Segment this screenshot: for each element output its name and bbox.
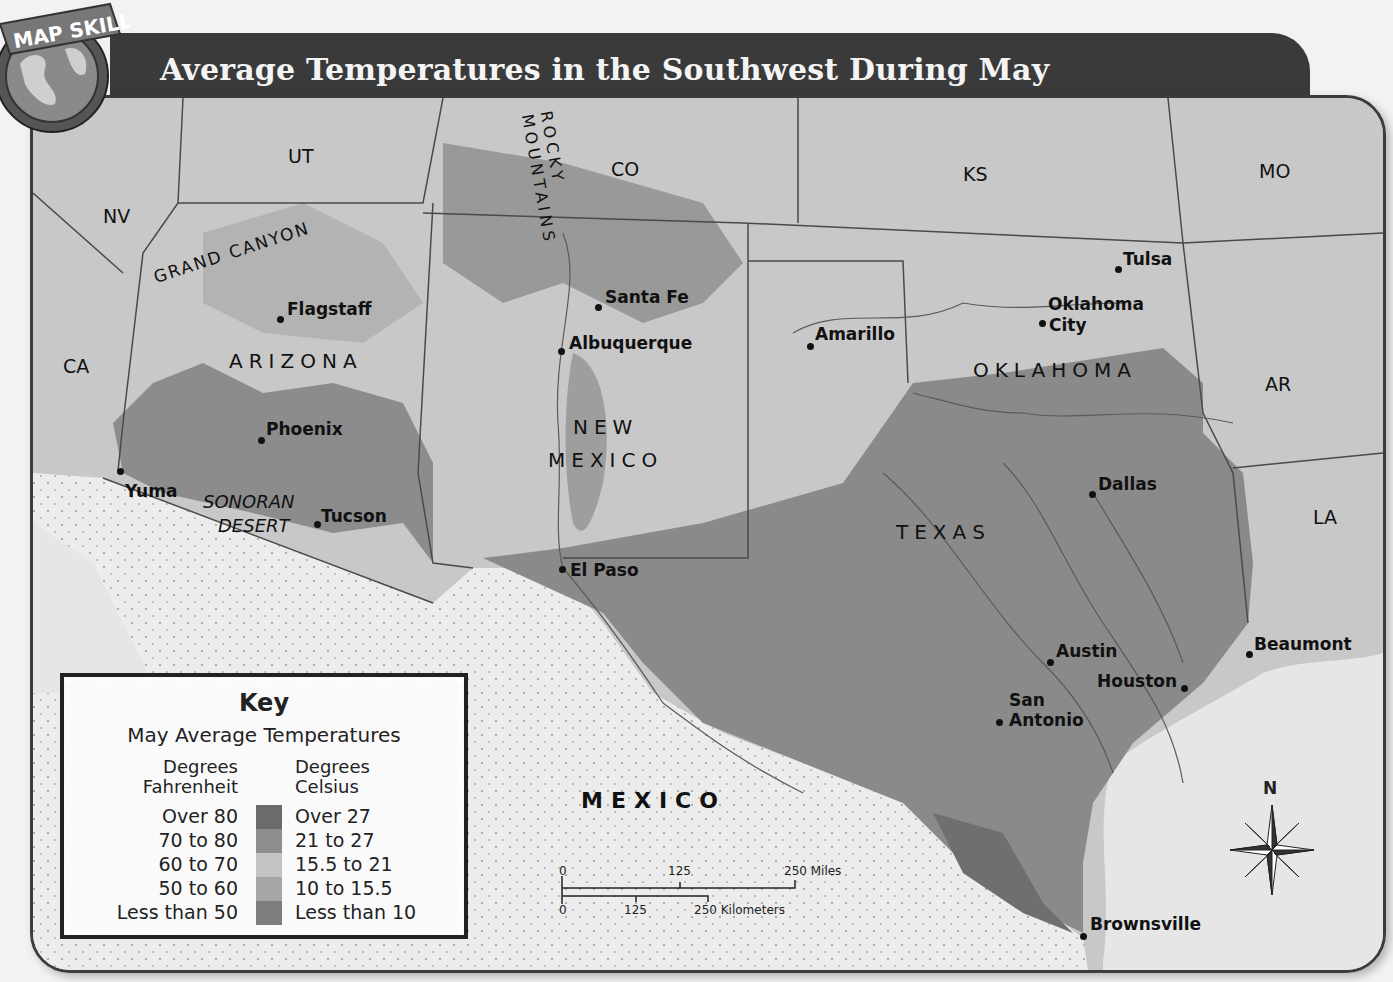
scale-km-0: 0 — [559, 903, 567, 917]
legend-f-50-60: 50 to 60 — [158, 877, 238, 899]
city-dot-dallas — [1089, 491, 1096, 498]
legend-c-10-15: 10 to 15.5 — [295, 877, 393, 899]
legend-subtitle: May Average Temperatures — [64, 723, 464, 747]
city-label-santa-fe: Santa Fe — [605, 287, 689, 307]
state-label-ut: UT — [288, 145, 314, 167]
city-dot-amarillo — [807, 343, 814, 350]
feature-label-desert: DESERT — [218, 515, 290, 536]
scale-miles-250: 250 Miles — [784, 864, 841, 878]
city-label-austin: Austin — [1056, 641, 1117, 661]
legend-f-70-80: 70 to 80 — [158, 829, 238, 851]
city-dot-yuma — [117, 468, 124, 475]
city-label-san: San — [1009, 690, 1045, 710]
city-label-dallas: Dallas — [1098, 474, 1157, 494]
city-dot-santa-fe — [595, 304, 602, 311]
scale-km-125: 125 — [624, 903, 647, 917]
city-label-brownsville: Brownsville — [1090, 914, 1201, 934]
legend-swatch-less-50 — [256, 901, 282, 925]
state-label-ar: AR — [1265, 373, 1291, 395]
scale-bar: 0 125 250 Miles 0 125 250 Kilometers — [558, 862, 858, 922]
state-label-ca: CA — [63, 355, 89, 377]
state-label-nv: NV — [103, 205, 130, 227]
city-label-antonio: Antonio — [1009, 710, 1084, 730]
legend-f-less-50: Less than 50 — [117, 901, 238, 923]
legend-swatch-60-70 — [256, 853, 282, 877]
legend-c-less-10: Less than 10 — [295, 901, 416, 923]
city-dot-tucson — [314, 521, 321, 528]
legend-c-over-27: Over 27 — [295, 805, 371, 827]
scale-miles-0: 0 — [559, 864, 567, 878]
legend-fahrenheit-header: Degrees Fahrenheit — [143, 757, 238, 797]
city-dot-san-antonio — [996, 719, 1003, 726]
city-label-city: City — [1049, 315, 1087, 335]
legend-f-60-70: 60 to 70 — [158, 853, 238, 875]
city-label-beaumont: Beaumont — [1254, 634, 1352, 654]
city-label-el-paso: El Paso — [570, 560, 639, 580]
legend-swatch-70-80 — [256, 829, 282, 853]
city-label-tulsa: Tulsa — [1123, 249, 1172, 269]
legend-f-over-80: Over 80 — [162, 805, 238, 827]
legend-swatch-over-80 — [256, 805, 282, 829]
city-dot-oklahoma-city — [1039, 320, 1046, 327]
legend-c-21-27: 21 to 27 — [295, 829, 375, 851]
city-dot-houston — [1181, 685, 1188, 692]
state-label-ks: KS — [963, 163, 988, 185]
compass-north-label: N — [1263, 778, 1277, 798]
state-label-mo: MO — [1259, 160, 1290, 182]
region-label-mexico-country: MEXICO — [581, 788, 726, 813]
compass-rose: N — [1225, 778, 1320, 898]
city-label-albuquerque: Albuquerque — [569, 333, 692, 353]
city-dot-austin — [1047, 659, 1054, 666]
city-dot-brownsville — [1080, 933, 1087, 940]
city-dot-tulsa — [1115, 266, 1122, 273]
city-label-oklahoma: Oklahoma — [1048, 294, 1144, 314]
legend-celsius-header: Degrees Celsius — [295, 757, 370, 797]
map-legend: Key May Average Temperatures Degrees Fah… — [60, 673, 468, 939]
city-label-yuma: Yuma — [125, 481, 177, 501]
feature-label-sonoran: SONORAN — [203, 491, 295, 512]
state-label-co: CO — [611, 158, 639, 180]
region-label-arizona: ARIZONA — [229, 349, 363, 373]
city-label-phoenix: Phoenix — [266, 419, 343, 439]
legend-swatch-50-60 — [256, 877, 282, 901]
city-label-flagstaff: Flagstaff — [287, 299, 372, 319]
region-label-new: NEW — [573, 415, 638, 439]
city-label-tucson: Tucson — [321, 506, 387, 526]
scale-km-250: 250 Kilometers — [694, 903, 785, 917]
city-dot-beaumont — [1246, 651, 1253, 658]
region-label-texas: TEXAS — [896, 520, 991, 544]
state-label-la: LA — [1313, 506, 1337, 528]
city-label-houston: Houston — [1097, 671, 1177, 691]
city-dot-el-paso — [559, 566, 566, 573]
map-skill-globe-icon: MAP SKILL — [0, 0, 130, 134]
map-title: Average Temperatures in the Southwest Du… — [160, 52, 1049, 87]
city-dot-albuquerque — [558, 348, 565, 355]
city-label-amarillo: Amarillo — [815, 324, 895, 344]
region-label-oklahoma: OKLAHOMA — [973, 358, 1137, 382]
scale-miles-125: 125 — [668, 864, 691, 878]
region-label-mexico-state: MEXICO — [548, 448, 663, 472]
city-dot-flagstaff — [277, 316, 284, 323]
legend-title: Key — [64, 689, 464, 717]
compass-star-icon — [1225, 800, 1320, 900]
legend-c-15-21: 15.5 to 21 — [295, 853, 393, 875]
city-dot-phoenix — [258, 437, 265, 444]
